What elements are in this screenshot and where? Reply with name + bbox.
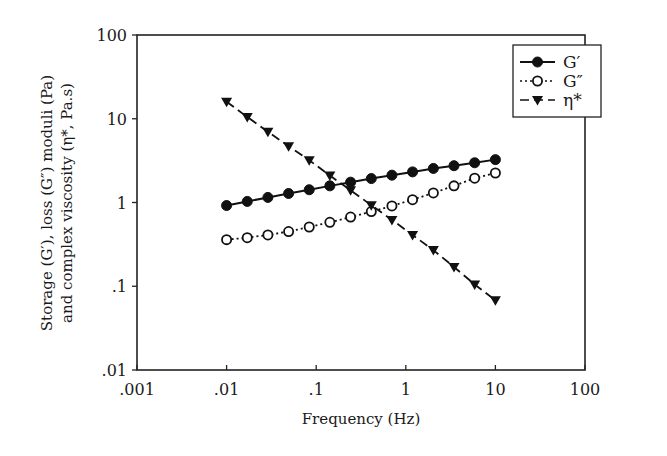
legend-marker <box>533 57 543 67</box>
data-point <box>449 161 459 171</box>
y-tick-label: .1 <box>112 277 127 296</box>
data-point <box>283 142 294 152</box>
data-point <box>449 181 458 190</box>
data-point <box>243 233 252 242</box>
y-tick-label: 100 <box>96 26 127 45</box>
data-point <box>408 195 417 204</box>
data-point <box>407 231 418 241</box>
data-point <box>366 174 376 184</box>
x-tick-label: 1 <box>401 380 411 399</box>
x-axis-label: Frequency (Hz) <box>302 410 421 428</box>
data-point <box>408 167 418 177</box>
data-point <box>345 186 356 196</box>
data-point <box>470 158 480 168</box>
y-axis-ticks: .01.1110100 <box>96 26 137 380</box>
data-point <box>387 201 396 210</box>
series-layer <box>221 98 501 306</box>
series-2 <box>221 98 501 306</box>
data-point <box>304 185 314 195</box>
data-point <box>325 218 334 227</box>
y-tick-label: 10 <box>107 110 127 129</box>
legend-label: G″ <box>563 71 583 91</box>
data-point <box>429 188 438 197</box>
rheology-chart: .001.01.1110100 .01.1110100 Frequency (H… <box>0 0 667 456</box>
y-tick-label: .01 <box>102 361 127 380</box>
data-point <box>324 172 335 182</box>
data-point <box>469 280 480 290</box>
data-point <box>262 128 273 138</box>
data-point <box>242 196 252 206</box>
data-point <box>242 113 253 123</box>
data-point <box>304 156 315 166</box>
data-point <box>263 192 273 202</box>
x-tick-label: .1 <box>309 380 324 399</box>
data-point <box>491 168 500 177</box>
y-axis-label-line2: and complex viscosity (η*, Pa.s) <box>58 83 76 323</box>
y-axis-label-line1: Storage (G′), loss (G″) moduli (Pa) <box>38 75 56 331</box>
legend-marker <box>533 76 542 85</box>
data-point <box>222 201 232 211</box>
legend: G′G″η* <box>513 45 601 117</box>
x-tick-label: 10 <box>485 380 505 399</box>
y-tick-label: 1 <box>117 194 127 213</box>
x-tick-label: .001 <box>119 380 155 399</box>
legend-label: η* <box>563 90 582 110</box>
data-point <box>387 170 397 180</box>
data-point <box>284 227 293 236</box>
data-point <box>470 174 479 183</box>
data-point <box>346 212 355 221</box>
legend-label: G′ <box>563 52 581 72</box>
series-0 <box>222 155 501 211</box>
data-point <box>386 216 397 226</box>
x-tick-label: .01 <box>214 380 239 399</box>
data-point <box>221 98 232 108</box>
data-point <box>222 235 231 244</box>
data-point <box>305 222 314 231</box>
data-point <box>490 296 501 306</box>
data-point <box>263 230 272 239</box>
x-tick-label: 100 <box>570 380 601 399</box>
data-point <box>428 163 438 173</box>
data-point <box>325 181 335 191</box>
data-point <box>490 155 500 165</box>
data-point <box>346 177 356 187</box>
data-point <box>284 189 294 199</box>
